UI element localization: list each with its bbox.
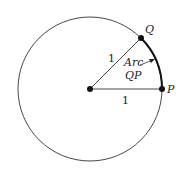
label-radius-op: 1 xyxy=(122,94,129,107)
label-p: P xyxy=(166,83,175,96)
label-arc-line2: QP xyxy=(125,69,142,82)
center-point xyxy=(87,86,93,92)
label-q: Q xyxy=(145,23,154,36)
unit-circle-diagram: Q P 1 1 Arc QP xyxy=(0,0,184,171)
label-radius-oq: 1 xyxy=(108,52,115,65)
label-arc-line1: Arc xyxy=(123,56,143,69)
point-p xyxy=(159,86,165,92)
point-q xyxy=(138,35,144,41)
diagram-canvas: Q P 1 1 Arc QP xyxy=(0,0,184,171)
